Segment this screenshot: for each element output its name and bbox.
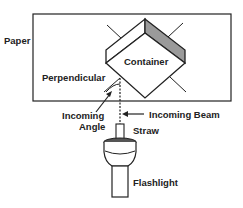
perpendicular-label: Perpendicular xyxy=(42,72,106,83)
straw-label: Straw xyxy=(133,125,159,136)
arrowhead-icon xyxy=(122,111,128,117)
paper-label: Paper xyxy=(4,35,31,46)
incoming-beam-label: Incoming Beam xyxy=(149,109,220,120)
container-label: Container xyxy=(124,56,169,67)
incoming-angle-label-line2: Angle xyxy=(79,121,105,132)
experiment-diagram: Container Paper Perpendicular Incoming A… xyxy=(0,0,243,208)
flashlight-label: Flashlight xyxy=(133,177,179,188)
flashlight-handle xyxy=(112,166,128,197)
incoming-angle-label-line1: Incoming xyxy=(62,110,104,121)
